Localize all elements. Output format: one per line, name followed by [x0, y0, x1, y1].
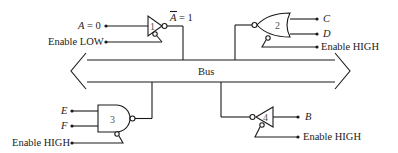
gate-2-body — [257, 13, 290, 37]
bus-right-arrowhead — [335, 53, 350, 89]
gate-2-nor: 2 — [235, 13, 319, 60]
bus-diagram: Bus 1 A = 0 A = 1 Enable LOW 2 — [0, 0, 398, 153]
input-d-label: D — [322, 28, 331, 39]
gate-4-number: 4 — [263, 112, 268, 123]
gate-2-number: 2 — [275, 20, 280, 31]
gate-4-inverter: 4 — [221, 82, 300, 139]
enable-low-label: Enable LOW — [48, 36, 104, 47]
output-b-label: B — [305, 111, 312, 122]
enable-high-2-label: Enable HIGH — [321, 41, 379, 52]
gate-2-enable-bubble — [266, 36, 270, 40]
enable-high-2-terminal — [315, 45, 318, 48]
input-c-terminal — [315, 17, 318, 20]
input-e-label: E — [60, 105, 68, 116]
input-d-terminal — [315, 32, 318, 35]
gate-4-output-bubble — [250, 115, 255, 120]
input-a-label: A = 0 — [77, 20, 101, 31]
bus-label: Bus — [198, 66, 214, 77]
enable-high-4-label: Enable HIGH — [303, 131, 361, 142]
svg-text:A = 1: A = 1 — [169, 12, 193, 23]
output-a-bar-label: A = 1 — [169, 12, 193, 24]
gate-1-enable-bubble — [153, 32, 157, 36]
input-f-label: F — [60, 120, 68, 131]
input-f-terminal — [70, 124, 73, 127]
gate-4-enable-bubble — [260, 123, 264, 127]
enable-high-4-terminal — [296, 135, 299, 138]
gate-3-output-bubble — [130, 116, 135, 121]
bus-left-arrowhead — [71, 53, 86, 89]
gate-1-number: 1 — [150, 21, 155, 32]
gate-3-enable-bubble — [115, 132, 119, 136]
input-e-terminal — [70, 109, 73, 112]
enable-high-3-label: Enable HIGH — [12, 137, 70, 148]
bus: Bus — [71, 53, 350, 89]
gate-3-nand: 3 — [70, 82, 152, 145]
enable-low-terminal — [104, 40, 107, 43]
gate-2-output-bubble — [252, 23, 257, 28]
gate-1-output-bubble — [162, 24, 167, 29]
gate-3-number: 3 — [110, 114, 115, 125]
enable-high-3-terminal — [70, 141, 73, 144]
output-b-terminal — [296, 115, 299, 118]
input-c-label: C — [323, 13, 331, 24]
